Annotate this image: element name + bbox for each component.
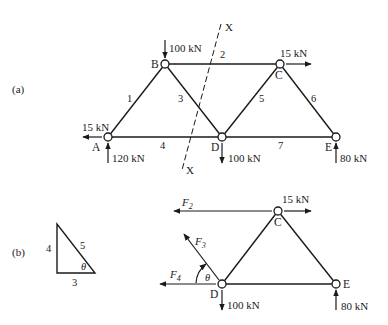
triangle-side-3: 3 (72, 277, 77, 288)
pin-d-b (218, 280, 226, 288)
triangle-shape (57, 224, 95, 273)
reaction-label-e-b: 80 kN (341, 300, 368, 312)
pin-b (161, 60, 169, 68)
load-label-c-right-b: 15 kN (282, 193, 309, 205)
node-label-a: A (92, 141, 101, 153)
pin-e (332, 133, 340, 141)
member-label-4: 4 (160, 140, 166, 151)
reaction-label-e: 80 kN (340, 152, 367, 164)
force-label-f2: F2 (181, 196, 193, 211)
node-label-d-b: D (210, 288, 218, 300)
node-label-c: C (275, 69, 283, 81)
member-1 (108, 64, 165, 137)
triangle-side-4: 4 (46, 243, 52, 254)
node-label-b: B (151, 58, 159, 70)
load-label-d-down: 100 kN (228, 152, 261, 164)
pin-e-b (332, 280, 340, 288)
part-a-label: (a) (12, 83, 25, 96)
node-label-d: D (211, 141, 219, 153)
triangle-side-5: 5 (80, 240, 85, 251)
part-b-label: (b) (12, 246, 25, 259)
pin-c-b (274, 207, 282, 215)
truss-diagram: (a) 1 2 3 4 5 6 7 X X 100 kN 15 kN 15 kN… (0, 0, 388, 325)
slope-triangle: 4 5 3 θ (46, 224, 95, 288)
load-label-d-down-b: 100 kN (227, 299, 260, 311)
part-b: (b) 4 5 3 θ F2 15 kN F3 F4 θ 100 kN (12, 193, 368, 312)
member-label-3: 3 (178, 93, 183, 104)
part-a: (a) 1 2 3 4 5 6 7 X X 100 kN 15 kN 15 kN… (12, 21, 367, 176)
member-6 (280, 64, 336, 137)
section-label-bottom: X (186, 164, 194, 176)
member-label-7: 7 (278, 140, 283, 151)
force-label-f3: F3 (194, 235, 206, 250)
pin-d (218, 133, 226, 141)
angle-label-theta: θ (205, 272, 210, 283)
reaction-label-a: 120 kN (112, 152, 145, 164)
pin-a (104, 133, 112, 141)
node-label-e: E (325, 141, 332, 153)
member-label-5: 5 (259, 93, 264, 104)
member-5 (222, 64, 280, 137)
load-label-b-down: 100 kN (169, 42, 202, 54)
member-3 (165, 64, 222, 137)
section-label-top: X (225, 21, 233, 33)
member-label-2: 2 (220, 49, 225, 60)
force-label-f4: F4 (169, 268, 181, 283)
node-label-c-b: C (274, 216, 282, 228)
pin-c (276, 60, 284, 68)
member-label-6: 6 (311, 93, 316, 104)
load-label-c-right: 15 kN (280, 47, 307, 59)
load-label-a-left: 15 kN (82, 121, 109, 133)
fb-member-dc (222, 211, 278, 284)
triangle-angle: θ (81, 261, 86, 272)
fb-member-ce (278, 211, 336, 284)
member-label-1: 1 (127, 93, 132, 104)
node-label-e-b: E (343, 278, 350, 290)
